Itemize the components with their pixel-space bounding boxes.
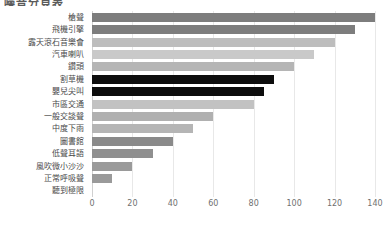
bar — [92, 87, 264, 96]
bar — [92, 62, 294, 71]
bar-row — [92, 62, 375, 71]
x-tick-label-20: 20 — [127, 199, 137, 208]
bar-row — [92, 25, 375, 34]
bar — [92, 75, 274, 84]
category-label: 圖書館 — [60, 137, 84, 146]
bar — [92, 124, 193, 133]
bar-row — [92, 75, 375, 84]
noise-decibel-bar-chart: 噪音分貝表 槍聲飛機引擎露天滾石音樂會汽車喇叭鑽頭割草機嬰兒尖叫市區交通一般交談… — [0, 0, 385, 230]
x-tick-label-80: 80 — [249, 199, 259, 208]
x-tick-label-120: 120 — [327, 199, 342, 208]
x-tick-label-0: 0 — [89, 199, 94, 208]
category-label: 正常呼吸聲 — [44, 174, 84, 183]
x-tick-label-40: 40 — [168, 199, 178, 208]
category-label: 飛機引擎 — [52, 25, 84, 34]
bar-row — [92, 87, 375, 96]
x-tick-label-100: 100 — [287, 199, 302, 208]
bar-rows — [92, 11, 375, 197]
bar-row — [92, 124, 375, 133]
category-label: 市區交通 — [52, 100, 84, 109]
bar-row — [92, 13, 375, 22]
category-label: 風吹微小沙沙 — [36, 162, 84, 171]
bar — [92, 112, 213, 121]
category-label: 嬰兒尖叫 — [52, 87, 84, 96]
bar — [92, 38, 335, 47]
plot-area — [92, 11, 375, 197]
bar — [92, 137, 173, 146]
bar-row — [92, 162, 375, 171]
bar — [92, 50, 314, 59]
bar-row — [92, 149, 375, 158]
category-label: 鑽頭 — [68, 62, 84, 71]
category-label: 一般交談聲 — [44, 112, 84, 121]
category-label: 割草機 — [60, 75, 84, 84]
bar-row — [92, 112, 375, 121]
bar — [92, 100, 254, 109]
category-label: 低聲耳語 — [52, 149, 84, 158]
chart-title: 噪音分貝表 — [4, 0, 64, 6]
x-axis: (分貝) 020406080100120140 — [92, 197, 375, 213]
bar-row — [92, 186, 375, 195]
category-label: 中度下雨 — [52, 124, 84, 133]
x-tick-label-60: 60 — [208, 199, 218, 208]
category-axis-labels: 槍聲飛機引擎露天滾石音樂會汽車喇叭鑽頭割草機嬰兒尖叫市區交通一般交談聲中度下雨圖… — [0, 11, 88, 197]
bar — [92, 162, 132, 171]
x-tick-label-140: 140 — [367, 199, 382, 208]
gridline-140 — [375, 11, 376, 197]
bar-row — [92, 100, 375, 109]
bar — [92, 174, 112, 183]
category-label: 聽到極限 — [52, 186, 84, 195]
bar — [92, 25, 355, 34]
bar-row — [92, 38, 375, 47]
bar-row — [92, 50, 375, 59]
category-label: 汽車喇叭 — [52, 50, 84, 59]
bar-row — [92, 174, 375, 183]
bar-row — [92, 137, 375, 146]
bar — [92, 13, 375, 22]
bar — [92, 149, 153, 158]
category-label: 露天滾石音樂會 — [28, 38, 84, 47]
category-label: 槍聲 — [68, 13, 84, 22]
